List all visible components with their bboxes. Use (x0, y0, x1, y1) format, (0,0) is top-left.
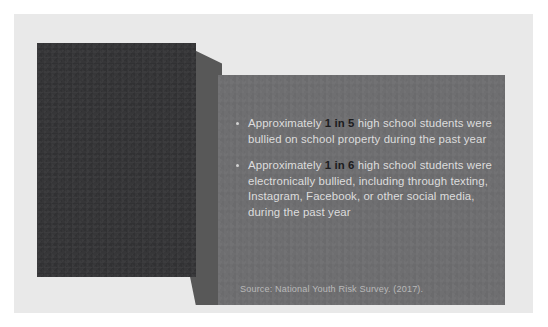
source-citation: Source: National Youth Risk Survey. (201… (240, 283, 423, 295)
photo-placeholder-block (37, 43, 196, 277)
status-badge: 1 in 6 (325, 159, 355, 171)
bullet-lead-text: Approximately (248, 159, 325, 171)
list-item: Approximately 1 in 6 high school student… (236, 158, 492, 220)
bullet-dot-icon (236, 164, 239, 167)
bullet-dot-icon (236, 122, 239, 125)
slide-canvas: Approximately 1 in 5 high school student… (0, 0, 548, 327)
statistics-bullet-list: Approximately 1 in 5 high school student… (236, 116, 492, 221)
content-panel: Approximately 1 in 5 high school student… (218, 75, 505, 305)
bullet-lead-text: Approximately (248, 117, 325, 129)
list-item: Approximately 1 in 5 high school student… (236, 116, 492, 147)
status-badge: 1 in 5 (325, 117, 355, 129)
